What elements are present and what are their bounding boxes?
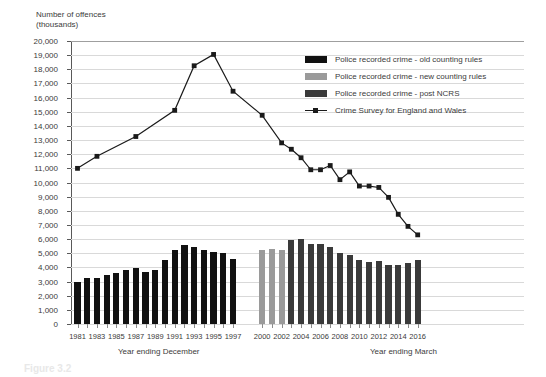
y-tick-label: 6,000 (38, 235, 58, 244)
x-tick-label: 2004 (293, 332, 310, 341)
x-tick-label: 2006 (312, 332, 329, 341)
y-tick-label: 0 (54, 320, 58, 329)
x-tick-mark (146, 324, 147, 328)
x-tick-label: 2014 (390, 332, 407, 341)
x-tick-label: 2002 (273, 332, 290, 341)
x-tick-mark (87, 324, 88, 328)
line-marker (95, 154, 100, 159)
y-tick-label: 4,000 (38, 263, 58, 272)
chart-legend: Police recorded crime - old counting rul… (305, 52, 540, 120)
gridline (71, 324, 524, 325)
x-tick-mark (330, 324, 331, 328)
x-tick-mark (321, 324, 322, 328)
x-tick-label: 1995 (205, 332, 222, 341)
line-marker (328, 163, 333, 168)
line-marker (386, 195, 391, 200)
x-tick-mark (126, 324, 127, 328)
legend-swatch-icon (305, 90, 327, 97)
legend-item: Police recorded crime - old counting rul… (305, 52, 540, 66)
x-axis-title-left: Year ending December (118, 347, 200, 356)
x-tick-mark (233, 324, 234, 328)
line-marker (376, 185, 381, 190)
y-tick-label: 1,000 (38, 305, 58, 314)
line-marker (133, 134, 138, 139)
x-tick-label: 2008 (332, 332, 349, 341)
x-tick-mark (369, 324, 370, 328)
x-tick-label: 2016 (409, 332, 426, 341)
legend-label: Police recorded crime - new counting rul… (335, 72, 486, 81)
line-marker (367, 184, 372, 189)
legend-label: Police recorded crime - post NCRS (335, 89, 459, 98)
x-tick-mark (97, 324, 98, 328)
x-tick-mark (350, 324, 351, 328)
x-axis-title-right: Year ending March (370, 347, 437, 356)
line-marker (357, 184, 362, 189)
x-tick-mark (214, 324, 215, 328)
x-tick-mark (204, 324, 205, 328)
legend-swatch-icon (305, 73, 327, 80)
y-axis-tick-labels: 01,0002,0003,0004,0005,0006,0007,0008,00… (0, 0, 66, 377)
x-tick-mark (136, 324, 137, 328)
x-tick-mark (165, 324, 166, 328)
x-tick-mark (408, 324, 409, 328)
line-marker (308, 167, 313, 172)
legend-label: Police recorded crime - old counting rul… (335, 55, 482, 64)
x-tick-mark (223, 324, 224, 328)
x-tick-mark (379, 324, 380, 328)
x-tick-mark (398, 324, 399, 328)
x-tick-mark (184, 324, 185, 328)
x-tick-mark (107, 324, 108, 328)
chart-container: Number of offences (thousands) 01,0002,0… (0, 0, 546, 377)
y-tick-label: 8,000 (38, 206, 58, 215)
figure-caption: Figure 3.2 (24, 363, 71, 374)
legend-line-marker-icon (305, 107, 327, 114)
y-tick-label: 12,000 (34, 150, 58, 159)
x-tick-label: 1989 (147, 332, 164, 341)
y-tick-label: 2,000 (38, 291, 58, 300)
x-tick-mark (418, 324, 419, 328)
y-tick-label: 5,000 (38, 249, 58, 258)
y-tick-label: 9,000 (38, 192, 58, 201)
x-tick-mark (389, 324, 390, 328)
line-marker (415, 232, 420, 237)
y-tick-label: 10,000 (34, 178, 58, 187)
y-tick-label: 7,000 (38, 220, 58, 229)
y-tick-label: 16,000 (34, 93, 58, 102)
line-marker (231, 89, 236, 94)
line-marker (318, 167, 323, 172)
y-tick-label: 20,000 (34, 37, 58, 46)
x-tick-mark (262, 324, 263, 328)
x-tick-label: 1997 (225, 332, 242, 341)
x-tick-label: 1991 (166, 332, 183, 341)
y-tick-label: 17,000 (34, 79, 58, 88)
line-marker (279, 140, 284, 145)
line-marker (406, 224, 411, 229)
line-marker (260, 113, 265, 118)
line-marker (192, 63, 197, 68)
x-tick-mark (155, 324, 156, 328)
y-tick-label: 11,000 (34, 164, 58, 173)
x-tick-mark (291, 324, 292, 328)
legend-label: Crime Survey for England and Wales (335, 106, 466, 115)
line-marker (347, 169, 352, 174)
legend-item: Police recorded crime - new counting rul… (305, 69, 540, 83)
legend-item: Crime Survey for England and Wales (305, 103, 540, 117)
line-marker (289, 147, 294, 152)
x-tick-mark (272, 324, 273, 328)
y-tick-label: 3,000 (38, 277, 58, 286)
x-tick-label: 2010 (351, 332, 368, 341)
x-tick-mark (282, 324, 283, 328)
x-tick-mark (311, 324, 312, 328)
legend-item: Police recorded crime - post NCRS (305, 86, 540, 100)
x-tick-mark (301, 324, 302, 328)
x-tick-label: 1985 (108, 332, 125, 341)
y-tick-label: 14,000 (34, 121, 58, 130)
line-marker (172, 108, 177, 113)
line-marker (396, 212, 401, 217)
y-tick-label: 18,000 (34, 65, 58, 74)
x-tick-label: 1983 (89, 332, 106, 341)
x-tick-mark (175, 324, 176, 328)
x-tick-mark (194, 324, 195, 328)
x-tick-label: 2012 (370, 332, 387, 341)
line-marker (299, 155, 304, 160)
